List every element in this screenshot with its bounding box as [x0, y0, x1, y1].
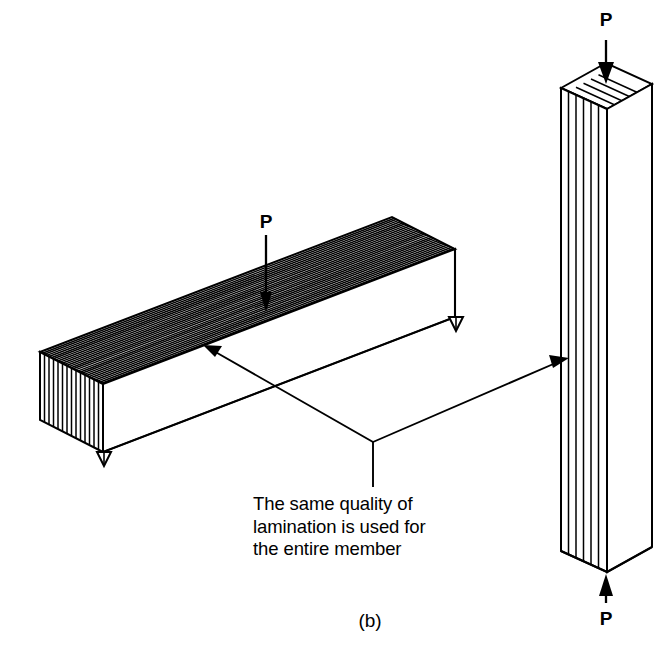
figure-container: P: [0, 0, 672, 650]
beam-group: P: [40, 211, 463, 466]
leader-to-column: [373, 362, 558, 442]
column-bottom-load-arrow: [599, 574, 613, 603]
beam-right-support: [449, 317, 463, 331]
column-bottom-load-label-P: P: [600, 608, 613, 629]
beam-left-support: [97, 452, 111, 466]
figure-part-label: (b): [358, 610, 381, 631]
beam-load-label-P: P: [260, 211, 273, 232]
column-side-face: [607, 84, 652, 572]
column-group: P P: [561, 9, 652, 629]
column-top-load-label-P: P: [600, 9, 613, 30]
lamination-caption: The same quality of lamination is used f…: [253, 493, 513, 561]
